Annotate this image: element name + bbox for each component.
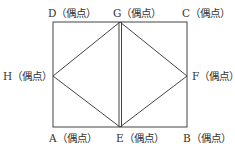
edge-H-E: [53, 76, 120, 127]
vertex-label-F: F（偶点）: [192, 70, 235, 82]
vertex-label-B: B（偶点）: [183, 132, 231, 144]
vertex-label-G: G（偶点）: [113, 7, 161, 19]
vertex-label-A: A（偶点）: [49, 132, 97, 144]
vertex-label-D: D（偶点）: [48, 7, 96, 19]
outer-rectangle: [53, 22, 187, 127]
vertex-label-H: H（偶点）: [3, 70, 52, 82]
vertex-label-C: C（偶点）: [182, 7, 230, 19]
edge-G-F: [120, 22, 187, 76]
vertex-label-E: E（偶点）: [116, 132, 164, 144]
edge-F-E: [120, 76, 187, 127]
edge-G-H: [53, 22, 120, 76]
